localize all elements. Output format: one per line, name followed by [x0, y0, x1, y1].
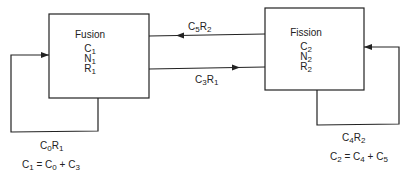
fusion-node-text: Fusion C1 N1 R1 — [60, 30, 120, 74]
fusion-to-fission-arrow — [149, 65, 265, 71]
arrowhead-right-icon — [41, 52, 49, 58]
arrowhead-left-icon — [364, 44, 372, 50]
fusion-var-r: R1 — [60, 64, 120, 74]
edge-label-fusion-to-fission: C3R1 — [195, 74, 218, 85]
arrowhead-right-icon — [232, 65, 240, 71]
equation-c1: C1 = C0 + C3 — [22, 159, 80, 170]
fusion-title: Fusion — [60, 30, 120, 40]
edge-label-fusion-self-loop: C0R1 — [40, 140, 63, 151]
fission-var-r: R2 — [276, 62, 336, 72]
arrowhead-left-icon — [176, 33, 184, 39]
edge-label-fission-self-loop: C4R2 — [342, 132, 365, 143]
fission-title: Fission — [276, 28, 336, 38]
equation-c2: C2 = C4 + C5 — [330, 151, 388, 162]
fission-node-text: Fission C2 N2 R2 — [276, 28, 336, 72]
edge-label-fission-to-fusion: C5R2 — [188, 21, 211, 32]
